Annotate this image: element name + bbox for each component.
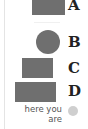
label-b: B (68, 35, 81, 50)
left-border-line (4, 0, 5, 129)
label-d: D (68, 84, 81, 99)
label-c: C (68, 61, 80, 76)
shape-b-circle[interactable] (36, 30, 60, 54)
here-you-are-line1: here you (12, 104, 62, 114)
label-a: A (68, 0, 80, 13)
location-marker-dot-icon (68, 106, 78, 116)
here-you-are-line2: are (12, 114, 62, 124)
separator-line (34, 22, 60, 23)
shape-d-rectangle[interactable] (15, 82, 56, 102)
shape-c-rectangle[interactable] (22, 58, 53, 78)
here-you-are-text: here you are (12, 104, 62, 124)
shape-a-rectangle[interactable] (32, 0, 65, 15)
